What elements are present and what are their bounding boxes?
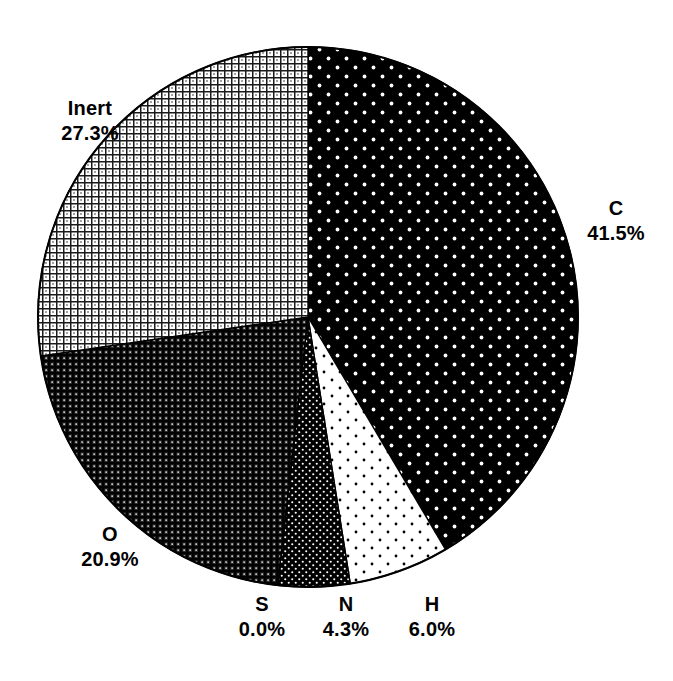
pie-label-o: O 20.9% (45, 522, 175, 572)
pie-label-n-value: 4.3% (296, 617, 396, 642)
pie-label-c-value: 41.5% (566, 221, 666, 246)
pie-label-o-value: 20.9% (45, 547, 175, 572)
pie-label-c-name: C (566, 196, 666, 221)
pie-label-h: H 6.0% (382, 592, 482, 642)
pie-label-h-value: 6.0% (382, 617, 482, 642)
pie-chart: Inert 27.3% C 41.5% O 20.9% S 0.0% N 4.3… (0, 0, 673, 681)
pie-label-n-name: N (296, 592, 396, 617)
pie-label-o-name: O (45, 522, 175, 547)
pie-slice-inert[interactable] (38, 47, 308, 356)
pie-label-inert-name: Inert (30, 96, 150, 121)
pie-label-c: C 41.5% (566, 196, 666, 246)
pie-label-inert-value: 27.3% (30, 121, 150, 146)
pie-label-n: N 4.3% (296, 592, 396, 642)
pie-label-h-name: H (382, 592, 482, 617)
pie-label-inert: Inert 27.3% (30, 96, 150, 146)
